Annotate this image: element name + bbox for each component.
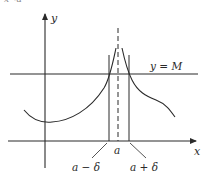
y-axis-label: y <box>50 12 58 25</box>
left-bound-label: a − δ <box>72 161 100 173</box>
horizontal-line-label: y = M <box>149 60 182 72</box>
infinite-limit-diagram: y x y = M a a − δ a + δ <box>0 0 213 181</box>
left-bound-leader-line <box>92 143 107 158</box>
x-axis-label: x <box>194 145 201 158</box>
curve-left-branch <box>24 48 116 122</box>
right-bound-leader-line <box>130 143 146 158</box>
point-a-label: a <box>114 144 120 156</box>
right-bound-label: a + δ <box>130 161 158 173</box>
curve-right-branch <box>122 48 175 117</box>
